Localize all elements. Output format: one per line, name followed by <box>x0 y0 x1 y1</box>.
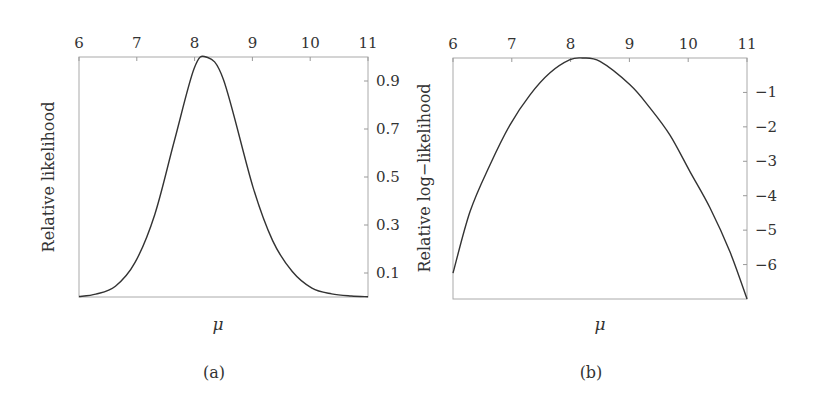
y-axis-ticks: −1−2−3−4−5−6 <box>743 83 777 273</box>
y-axis-label: Relative log−likelihood <box>415 83 434 272</box>
y-tick-label: −2 <box>755 118 777 136</box>
x-tick-label: 6 <box>448 35 458 53</box>
x-tick-label: 11 <box>737 35 756 53</box>
y-tick-label: −3 <box>755 152 777 170</box>
x-tick-label: 8 <box>566 35 576 53</box>
panel-b: 67891011 −1−2−3−4−5−6 Relative log−likel… <box>0 0 817 409</box>
panel-caption: (b) <box>580 363 603 382</box>
x-tick-label: 7 <box>507 35 517 53</box>
y-tick-label: −1 <box>755 83 777 101</box>
x-axis-label: μ <box>594 314 605 334</box>
y-tick-label: −5 <box>755 221 777 239</box>
x-tick-label: 10 <box>679 35 698 53</box>
y-tick-label: −4 <box>755 187 777 205</box>
y-tick-label: −6 <box>755 256 777 274</box>
plot-frame <box>453 58 747 299</box>
x-tick-label: 9 <box>625 35 635 53</box>
log-likelihood-chart: 67891011 −1−2−3−4−5−6 Relative log−likel… <box>0 0 817 409</box>
log-likelihood-curve <box>453 58 747 299</box>
